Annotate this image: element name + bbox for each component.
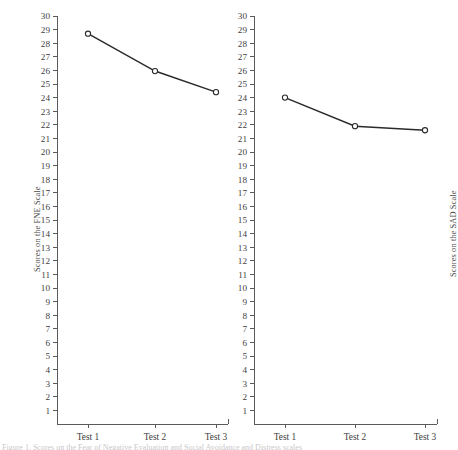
y-tick-label: 1 xyxy=(242,406,247,416)
y-tick-label: 25 xyxy=(238,79,248,89)
y-tick-label: 8 xyxy=(242,311,247,321)
y-tick-label: 22 xyxy=(238,120,248,130)
y-tick-label: 5 xyxy=(45,351,50,361)
y-tick-label: 17 xyxy=(238,188,248,198)
y-tick-label: 26 xyxy=(41,66,51,76)
x-tick-label: Test 1 xyxy=(274,432,297,442)
y-tick-label: 18 xyxy=(238,175,248,185)
y-tick-label: 17 xyxy=(41,188,51,198)
y-tick-label: 20 xyxy=(238,147,248,157)
y-tick-label: 5 xyxy=(242,351,247,361)
y-tick-label: 4 xyxy=(242,365,247,375)
data-point-marker xyxy=(152,68,157,73)
y-tick-label: 9 xyxy=(45,297,50,307)
data-point-marker xyxy=(352,124,357,129)
y-tick-label: 6 xyxy=(45,338,50,348)
y-axis-title-sad: Scores on the SAD Scale xyxy=(449,191,458,278)
y-tick-label: 18 xyxy=(41,175,51,185)
y-tick-label: 29 xyxy=(238,25,248,35)
y-tick-label: 24 xyxy=(238,93,248,103)
y-tick-label: 7 xyxy=(242,324,247,334)
y-tick-label: 19 xyxy=(41,161,51,171)
y-tick-label: 12 xyxy=(41,256,51,266)
y-tick-label: 29 xyxy=(41,25,51,35)
y-tick-label: 11 xyxy=(238,270,247,280)
y-tick-label: 9 xyxy=(242,297,247,307)
y-tick-label: 7 xyxy=(45,324,50,334)
y-tick-label: 3 xyxy=(45,379,50,389)
data-point-marker xyxy=(282,95,287,100)
y-tick-label: 24 xyxy=(41,93,51,103)
y-tick-label: 22 xyxy=(41,120,51,130)
y-tick-label: 23 xyxy=(41,107,51,117)
y-tick-label: 13 xyxy=(41,243,51,253)
data-series-line xyxy=(88,34,216,92)
y-tick-label: 12 xyxy=(238,256,248,266)
y-tick-label: 19 xyxy=(238,161,248,171)
y-tick-label: 3 xyxy=(242,379,247,389)
y-tick-label: 10 xyxy=(41,283,51,293)
y-tick-label: 8 xyxy=(45,311,50,321)
y-tick-label: 2 xyxy=(242,392,247,402)
y-tick-label: 20 xyxy=(41,147,51,157)
clipped-caption-sliver: Figure 1. Scores on the Fear of Negative… xyxy=(2,443,452,450)
x-tick-label: Test 2 xyxy=(344,432,367,442)
y-tick-label: 13 xyxy=(238,243,248,253)
y-tick-label: 26 xyxy=(238,66,248,76)
y-tick-label: 23 xyxy=(238,107,248,117)
y-tick-label: 21 xyxy=(41,134,51,144)
y-tick-label: 27 xyxy=(238,52,248,62)
y-tick-label: 6 xyxy=(242,338,247,348)
y-tick-label: 15 xyxy=(238,215,248,225)
data-point-marker xyxy=(85,31,90,36)
y-tick-label: 11 xyxy=(41,270,50,280)
chart-panel-sad: 1234567891011121314151617181920212223242… xyxy=(218,0,455,450)
y-tick-label: 25 xyxy=(41,79,51,89)
line-chart-sad: 1234567891011121314151617181920212223242… xyxy=(218,0,455,450)
y-tick-label: 28 xyxy=(41,39,51,49)
chart-panel-fne: 1234567891011121314151617181920212223242… xyxy=(0,0,232,450)
y-tick-label: 10 xyxy=(238,283,248,293)
y-tick-label: 27 xyxy=(41,52,51,62)
y-tick-label: 15 xyxy=(41,215,51,225)
y-tick-label: 14 xyxy=(238,229,248,239)
y-tick-label: 30 xyxy=(238,11,248,21)
x-tick-label: Test 1 xyxy=(77,432,100,442)
y-tick-label: 28 xyxy=(238,39,248,49)
y-tick-label: 4 xyxy=(45,365,50,375)
data-point-marker xyxy=(422,128,427,133)
y-tick-label: 1 xyxy=(45,406,50,416)
y-tick-label: 14 xyxy=(41,229,51,239)
y-tick-label: 16 xyxy=(41,202,51,212)
y-tick-label: 30 xyxy=(41,11,51,21)
x-tick-label: Test 3 xyxy=(414,432,437,442)
x-tick-label: Test 2 xyxy=(144,432,167,442)
y-tick-label: 16 xyxy=(238,202,248,212)
y-axis-title-fne: Scores on the FNE Scale xyxy=(33,186,42,272)
y-tick-label: 21 xyxy=(238,134,248,144)
y-tick-label: 2 xyxy=(45,392,50,402)
